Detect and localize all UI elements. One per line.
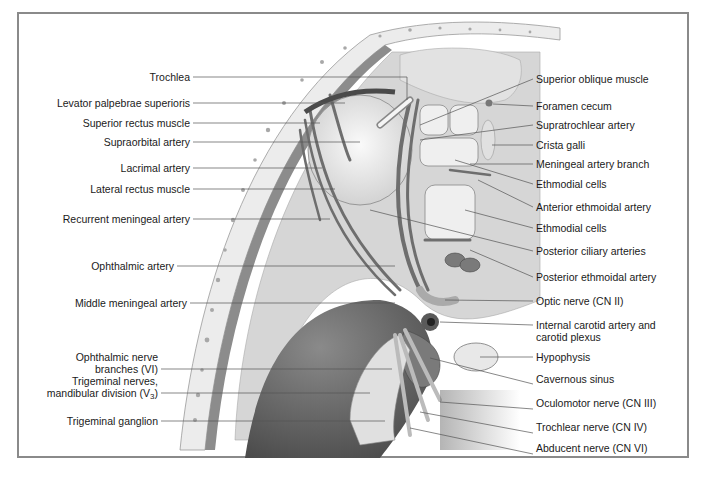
label-oculomotor-nerve: Oculomotor nerve (CN III) (536, 397, 656, 409)
label-ethmoidal-cells-1: Ethmodial cells (536, 178, 607, 190)
label-cavernous-sinus: Cavernous sinus (536, 373, 614, 385)
label-middle-meningeal: Middle meningeal artery (75, 297, 187, 309)
label-ophthalmic-artery: Ophthalmic artery (91, 260, 174, 272)
label-crista-galli: Crista galli (536, 139, 585, 151)
label-abducent-nerve: Abducent nerve (CN VI) (536, 442, 647, 454)
label-ethmoidal-cells-2: Ethmodial cells (536, 222, 607, 234)
label-posterior-ciliary: Posterior ciliary arteries (536, 245, 646, 257)
label-ophthalmic-nerve-branches: Ophthalmic nerve branches (VI) (76, 351, 158, 375)
label-lateral-rectus: Lateral rectus muscle (90, 183, 190, 195)
label-internal-carotid: Internal carotid artery and carotid plex… (536, 319, 656, 343)
label-meningeal-artery-branch: Meningeal artery branch (536, 158, 649, 170)
label-superior-rectus: Superior rectus muscle (83, 117, 190, 129)
label-recurrent-meningeal: Recurrent meningeal artery (63, 213, 190, 225)
label-trochlea: Trochlea (150, 71, 190, 83)
label-optic-nerve: Optic nerve (CN II) (536, 295, 624, 307)
label-anterior-ethmoidal: Anterior ethmoidal artery (536, 201, 651, 213)
label-supraorbital-artery: Supraorbital artery (104, 136, 190, 148)
label-supratrochlear-artery: Supratrochlear artery (536, 119, 635, 131)
label-levator-palpebrae: Levator palpebrae superioris (57, 97, 190, 109)
label-trigeminal-ganglion: Trigeminal ganglion (67, 415, 158, 427)
label-trochlear-nerve: Trochlear nerve (CN IV) (536, 421, 647, 433)
label-lacrimal-artery: Lacrimal artery (121, 162, 190, 174)
label-superior-oblique: Superior oblique muscle (536, 73, 649, 85)
label-posterior-ethmoidal: Posterior ethmoidal artery (536, 271, 656, 283)
label-hypophysis: Hypophysis (536, 351, 590, 363)
label-foramen-cecum: Foramen cecum (536, 100, 612, 112)
label-trigeminal-mandibular: Trigeminal nerves, mandibular division (… (47, 375, 158, 403)
